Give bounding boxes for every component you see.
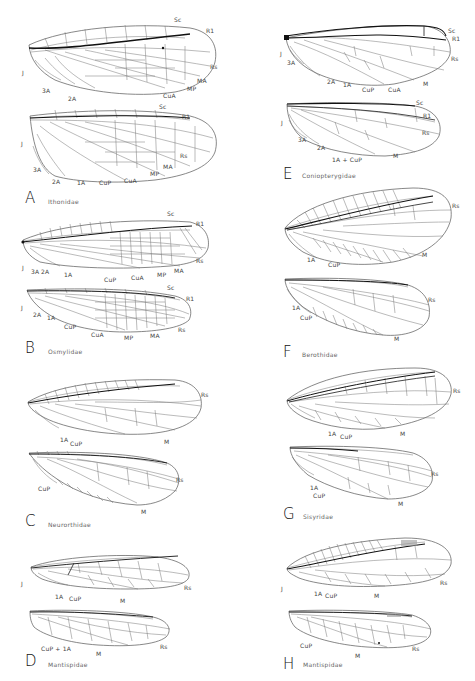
label-sc: Sc xyxy=(448,27,456,34)
label-cup: CuP xyxy=(300,314,312,321)
label-1a: 1A xyxy=(343,81,351,88)
label-2a: 2A xyxy=(33,311,41,318)
label-ma: MA xyxy=(150,332,160,339)
label-cua: CuA xyxy=(388,86,401,93)
label-m: M xyxy=(400,430,405,437)
label-j: J xyxy=(281,119,283,126)
panel-letter: A xyxy=(25,189,35,207)
label-j: J xyxy=(21,580,23,587)
panel-letter: E xyxy=(283,165,292,183)
family-name: Ithonidae xyxy=(48,198,79,205)
label-sc: Sc xyxy=(416,99,424,106)
panel-e-forewing xyxy=(284,22,454,90)
label-cup: CuP xyxy=(300,642,312,649)
panel-g-hindwing xyxy=(288,443,438,501)
label-cup: CuP xyxy=(99,179,111,186)
label-rs: Rs xyxy=(452,202,460,209)
label-2a: 2A xyxy=(327,78,335,85)
label-ma: MA xyxy=(197,77,207,84)
label-cup: CuP xyxy=(313,492,325,499)
label-1a: 1A xyxy=(77,179,85,186)
family-name: Mantispidae xyxy=(48,661,88,668)
label-m: M xyxy=(96,650,101,657)
panel-d-hindwing xyxy=(28,607,173,649)
label-m: M xyxy=(355,652,360,659)
label-r1: R1 xyxy=(206,27,214,34)
family-name: Berothidae xyxy=(302,351,338,358)
label-1a-cup: 1A + CuP xyxy=(332,156,362,163)
label-3a: 3A xyxy=(31,268,39,275)
label-r1: R1 xyxy=(196,220,204,227)
label-m: M xyxy=(141,508,146,515)
label-cup-1a: CuP + 1A xyxy=(41,645,71,652)
label-1a: 1A xyxy=(55,593,63,600)
label-m: M xyxy=(394,335,399,342)
panel-c-hindwing xyxy=(27,449,187,509)
label-rs: Rs xyxy=(178,326,186,333)
label-rs: Rs xyxy=(160,643,168,650)
label-2a: 2A xyxy=(52,178,60,185)
family-name: Sisyridae xyxy=(303,513,333,520)
label-rs: Rs xyxy=(412,645,420,652)
label-rs: Rs xyxy=(422,129,430,136)
panel-b-hindwing xyxy=(25,286,195,334)
family-name: Mantispidae xyxy=(303,661,343,668)
label-3a: 3A xyxy=(298,136,306,143)
panel-c-forewing xyxy=(25,372,205,442)
label-3a: 3A xyxy=(42,87,50,94)
label-m: M xyxy=(423,80,428,87)
label-2a: 2A xyxy=(41,268,49,275)
label-cup: CuP xyxy=(328,261,340,268)
label-rs: Rs xyxy=(453,387,461,394)
label-1a: 1A xyxy=(64,271,72,278)
family-name: Coniopterygidae xyxy=(302,172,356,179)
label-rs: Rs xyxy=(440,579,448,586)
panel-b-forewing xyxy=(20,218,210,273)
panel-g-forewing xyxy=(285,364,455,434)
label-2a: 2A xyxy=(317,144,325,151)
label-rs: Rs xyxy=(201,391,209,398)
label-m: M xyxy=(398,500,403,507)
label-rs: Rs xyxy=(180,152,188,159)
label-j: J xyxy=(281,585,283,592)
label-rs: Rs xyxy=(176,476,184,483)
label-3a: 3A xyxy=(33,166,41,173)
family-name: Osmylidae xyxy=(48,348,82,355)
panel-letter: B xyxy=(25,339,35,357)
label-rs: Rs xyxy=(196,257,204,264)
label-1a: 1A xyxy=(310,484,318,491)
panel-f-hindwing xyxy=(283,275,433,339)
label-m: M xyxy=(422,251,427,258)
label-rs: Rs xyxy=(451,55,459,62)
label-cua: CuA xyxy=(91,331,104,338)
label-cup: CuP xyxy=(362,86,374,93)
label-sc: Sc xyxy=(159,103,167,110)
label-m: M xyxy=(120,597,125,604)
label-j: J xyxy=(22,264,24,271)
label-1a: 1A xyxy=(307,256,315,263)
label-r1: R1 xyxy=(186,295,194,302)
label-m: M xyxy=(374,592,379,599)
panel-letter: H xyxy=(283,655,294,673)
panel-letter: D xyxy=(25,652,37,670)
label-sc: Sc xyxy=(167,210,175,217)
label-j: J xyxy=(21,304,23,311)
label-cup: CuP xyxy=(104,276,116,283)
label-mp: MP xyxy=(187,85,196,92)
label-m: M xyxy=(164,438,169,445)
family-name: Neurorthidae xyxy=(48,521,91,528)
label-cua: CuA xyxy=(124,177,137,184)
label-rs: Rs xyxy=(431,470,439,477)
label-2a: 2A xyxy=(68,95,76,102)
label-j: J xyxy=(21,140,23,147)
panel-letter: G xyxy=(283,505,295,523)
label-j: J xyxy=(280,50,282,57)
label-cua: CuA xyxy=(163,92,176,99)
label-cup: CuP xyxy=(69,595,81,602)
label-cua: CuA xyxy=(131,274,144,281)
label-ma: MA xyxy=(174,267,184,274)
label-ma: MA xyxy=(163,163,173,170)
label-sc: Sc xyxy=(174,16,182,23)
label-r1: R1 xyxy=(423,112,431,119)
label-cup: CuP xyxy=(64,323,76,330)
